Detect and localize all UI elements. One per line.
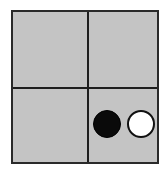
black-stone <box>93 110 121 138</box>
cell-top-left <box>13 12 87 87</box>
horizontal-divider <box>13 87 157 89</box>
grid-board <box>11 10 159 164</box>
white-stone <box>127 110 155 138</box>
cell-bottom-left <box>13 89 87 162</box>
cell-top-right <box>89 12 157 87</box>
